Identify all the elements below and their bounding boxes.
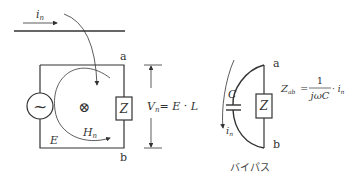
field-label: Hn bbox=[82, 126, 98, 140]
flux-into-page-icon: ⊗ bbox=[78, 99, 90, 115]
current-label: in bbox=[36, 8, 45, 22]
bypass-current-label: in bbox=[226, 125, 233, 137]
formula-equals: = bbox=[300, 83, 308, 94]
formula-denominator: jωC bbox=[309, 90, 330, 101]
node-a-label-right: a bbox=[273, 57, 280, 70]
loop-top-wire bbox=[40, 65, 124, 98]
source-symbol: ~ bbox=[33, 96, 47, 116]
right-diagram: C Z a b in Zab = 1 jωC · in バイパス bbox=[222, 57, 344, 173]
emf-label: E bbox=[49, 134, 58, 147]
formula-lhs: Zab bbox=[280, 83, 296, 95]
left-diagram: in ~ Z a b ⊗ Hn E Vn= E · L bbox=[14, 8, 198, 164]
voltage-expression: Vn= E · L bbox=[147, 100, 198, 114]
capacitor-label: C bbox=[228, 88, 237, 101]
formula-tail: · in bbox=[332, 84, 345, 95]
diagram-canvas: in ~ Z a b ⊗ Hn E Vn= E · L bbox=[0, 0, 352, 177]
bypass-caption: バイパス bbox=[230, 162, 270, 173]
induction-arrow-icon bbox=[64, 14, 97, 85]
node-b-label-right: b bbox=[273, 138, 280, 151]
node-b-label: b bbox=[120, 151, 127, 164]
formula-numerator: 1 bbox=[317, 75, 323, 86]
impedance-label-right: Z bbox=[259, 99, 269, 113]
node-a-label: a bbox=[120, 50, 127, 63]
impedance-label: Z bbox=[119, 102, 129, 116]
